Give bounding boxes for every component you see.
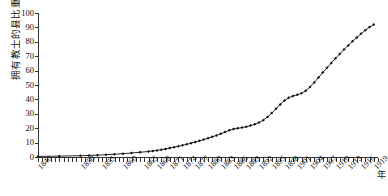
- data-point-marker: [207, 137, 210, 140]
- x-tick-mark: [234, 158, 235, 162]
- data-point-marker: [228, 129, 231, 132]
- data-point-marker: [164, 147, 167, 150]
- data-point-marker: [245, 125, 248, 128]
- x-tick-mark: [357, 158, 358, 162]
- x-tick-mark: [293, 158, 294, 162]
- data-point-marker: [219, 132, 222, 135]
- x-tick-mark: [280, 158, 281, 162]
- x-tick-mark: [42, 158, 43, 162]
- x-tick-mark: [297, 158, 298, 162]
- data-point-marker: [249, 124, 252, 127]
- x-tick-mark: [166, 158, 167, 162]
- x-axis-tick-marks: [38, 158, 378, 164]
- data-point-marker: [177, 145, 180, 148]
- x-tick-mark: [348, 158, 349, 162]
- x-tick-mark: [38, 158, 39, 162]
- y-tick-label: 100: [10, 9, 34, 18]
- x-tick-mark: [285, 158, 286, 162]
- x-tick-mark: [127, 158, 128, 162]
- x-tick-mark: [255, 158, 256, 162]
- y-tick-label: 30: [10, 109, 34, 118]
- y-tick-mark: [35, 99, 39, 100]
- x-tick-mark: [208, 158, 209, 162]
- data-point-marker: [139, 151, 142, 154]
- data-point-marker: [292, 94, 295, 97]
- x-tick-mark: [370, 158, 371, 162]
- x-tick-mark: [149, 158, 150, 162]
- x-tick-mark: [183, 158, 184, 162]
- y-tick-mark: [35, 56, 39, 57]
- chart-container: 拥有教士的县比重 0102030405060708090100 18401850…: [0, 0, 388, 196]
- data-point-marker: [130, 151, 133, 154]
- y-tick-mark: [35, 85, 39, 86]
- data-point-marker: [190, 142, 193, 145]
- data-point-marker: [202, 138, 205, 141]
- x-tick-mark: [353, 158, 354, 162]
- x-tick-mark: [289, 158, 290, 162]
- x-tick-mark: [106, 158, 107, 162]
- x-tick-mark: [238, 158, 239, 162]
- y-tick-label: 20: [10, 124, 34, 133]
- x-tick-mark: [123, 158, 124, 162]
- x-tick-mark: [64, 158, 65, 162]
- x-tick-mark: [157, 158, 158, 162]
- y-tick-mark: [35, 13, 39, 14]
- x-tick-mark: [212, 158, 213, 162]
- x-tick-mark: [119, 158, 120, 162]
- y-tick-label: 60: [10, 66, 34, 75]
- data-point-marker: [105, 153, 108, 156]
- x-tick-mark: [344, 158, 345, 162]
- x-tick-mark: [319, 158, 320, 162]
- x-tick-mark: [170, 158, 171, 162]
- x-tick-mark: [306, 158, 307, 162]
- x-tick-mark: [314, 158, 315, 162]
- data-point-marker: [198, 139, 201, 142]
- data-point-marker: [88, 154, 91, 157]
- x-tick-mark: [242, 158, 243, 162]
- data-point-marker: [173, 146, 176, 149]
- x-tick-mark: [225, 158, 226, 162]
- x-tick-mark: [263, 158, 264, 162]
- x-tick-mark: [76, 158, 77, 162]
- y-tick-mark: [35, 42, 39, 43]
- y-tick-label: 90: [10, 23, 34, 32]
- data-point-marker: [181, 144, 184, 147]
- y-tick-label: 40: [10, 95, 34, 104]
- x-tick-mark: [153, 158, 154, 162]
- plot-area: [38, 13, 378, 158]
- x-tick-mark: [72, 158, 73, 162]
- x-tick-mark: [59, 158, 60, 162]
- y-tick-label: 80: [10, 37, 34, 46]
- x-tick-mark: [85, 158, 86, 162]
- data-point-marker: [241, 126, 244, 129]
- data-point-marker: [96, 154, 99, 157]
- data-point-marker: [215, 134, 218, 137]
- x-tick-mark: [340, 158, 341, 162]
- data-point-marker: [122, 152, 125, 155]
- x-tick-mark: [195, 158, 196, 162]
- data-point-marker: [185, 143, 188, 146]
- data-point-marker: [151, 149, 154, 152]
- x-tick-mark: [68, 158, 69, 162]
- x-tick-mark: [331, 158, 332, 162]
- x-axis-unit-label: 年: [377, 170, 386, 180]
- data-point-marker: [211, 135, 214, 138]
- x-tick-mark: [161, 158, 162, 162]
- y-axis-tick-labels: 0102030405060708090100: [10, 0, 34, 196]
- x-tick-mark: [323, 158, 324, 162]
- y-tick-label: 0: [10, 153, 34, 162]
- x-tick-mark: [276, 158, 277, 162]
- data-point-marker: [113, 153, 116, 156]
- data-point-marker: [236, 127, 239, 130]
- data-point-marker: [194, 141, 197, 144]
- data-point-marker: [160, 148, 163, 151]
- x-tick-mark: [174, 158, 175, 162]
- x-tick-mark: [268, 158, 269, 162]
- x-tick-mark: [115, 158, 116, 162]
- data-point-marker: [168, 147, 171, 150]
- x-tick-mark: [55, 158, 56, 162]
- x-tick-mark: [89, 158, 90, 162]
- data-series-line: [38, 13, 378, 158]
- x-tick-mark: [93, 158, 94, 162]
- x-tick-mark: [144, 158, 145, 162]
